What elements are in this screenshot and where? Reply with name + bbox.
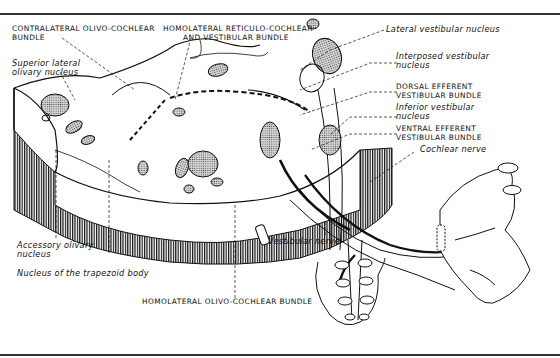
inferior-vestibular-nucleus (319, 125, 341, 155)
labyrinth (437, 163, 530, 303)
superior-lateral-olivary-nucleus (41, 94, 69, 116)
label-trapezoid-body-nucleus: Nucleus of the trapezoid body (17, 269, 149, 278)
label-line: nucleus (17, 250, 94, 259)
label-inferior-vestibular-nucleus: Inferior vestibular nucleus (396, 103, 475, 121)
label-vestibular-nerve: Vestibular nerve (268, 237, 340, 246)
label-interposed-vestibular-nucleus: Interposed vestibular nucleus (396, 52, 490, 70)
label-line: VESTIBULAR BUNDLE (396, 134, 482, 143)
label-line: AND VESTIBULAR BUNDLE (163, 34, 313, 43)
lower-lobe (316, 240, 385, 325)
label-line: BUNDLE (12, 34, 155, 43)
label-homolateral-olivo-cochlear-bundle: HOMOLATERAL OLIVO-COCHLEAR BUNDLE (142, 298, 312, 307)
label-contralateral-olivo-cochlear: CONTRALATERAL OLIVO-COCHLEAR BUNDLE (12, 25, 155, 42)
olivary-complex (188, 151, 218, 177)
lateral-vestibular-nucleus (308, 34, 347, 77)
label-homolateral-reticulo-cochlear: HOMOLATERAL RETICULO-COCHLEAR AND VESTIB… (163, 25, 313, 42)
label-line: olivary nucleus (12, 68, 80, 77)
label-line: nucleus (396, 61, 490, 70)
label-lateral-vestibular-nucleus: Lateral vestibular nucleus (386, 25, 500, 34)
label-cochlear-nerve: Cochlear nerve (420, 145, 486, 154)
trapezoid-body-nucleus (138, 161, 148, 175)
label-ventral-efferent-vestibular-bundle: VENTRAL EFFERENT VESTIBULAR BUNDLE (396, 125, 482, 142)
label-dorsal-efferent-vestibular-bundle: DORSAL EFFERENT VESTIBULAR BUNDLE (396, 83, 482, 100)
label-line: nucleus (396, 112, 475, 121)
interposed-vestibular-nucleus (260, 122, 280, 158)
label-superior-lateral-olivary-nucleus: Superior lateral olivary nucleus (12, 59, 80, 77)
label-line: VESTIBULAR BUNDLE (396, 92, 482, 101)
label-accessory-olivary-nucleus: Accessory olivary nucleus (17, 241, 94, 259)
